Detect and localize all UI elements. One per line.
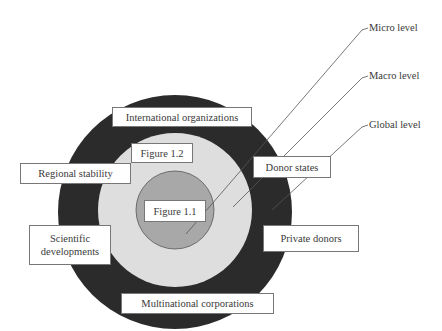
private-donors-box: Private donors	[263, 225, 359, 252]
scientific-developments-line1: Scientific	[50, 232, 90, 245]
macro-level-label: Macro level	[369, 70, 419, 81]
international-organizations-box: International organizations	[112, 107, 252, 127]
figure-1-2-box: Figure 1.2	[131, 143, 193, 163]
micro-level-label: Micro level	[369, 22, 418, 33]
multinational-corporations-box: Multinational corporations	[121, 293, 274, 314]
figure-1-1-box: Figure 1.1	[144, 200, 206, 222]
donor-states-box: Donor states	[253, 156, 331, 178]
regional-stability-box: Regional stability	[20, 163, 131, 184]
scientific-developments-box: Scientific developments	[29, 225, 111, 265]
global-level-label: Global level	[369, 119, 421, 130]
scientific-developments-line2: developments	[41, 245, 99, 258]
